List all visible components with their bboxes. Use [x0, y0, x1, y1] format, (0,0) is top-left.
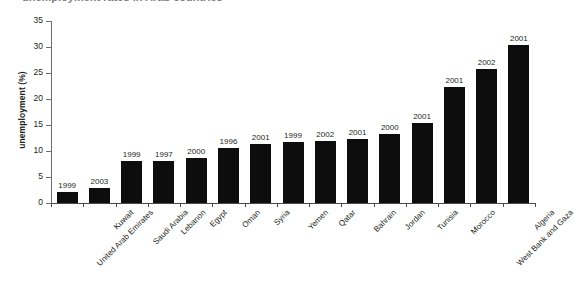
y-tick-label-10: 10 [34, 145, 43, 155]
y-tick-20: 20 [46, 99, 51, 100]
y-tick-label-15: 15 [34, 119, 43, 129]
bar-year-label: 2002 [478, 58, 496, 67]
bar[interactable]: 2001 [347, 139, 368, 203]
x-category-label: Bahrain [372, 208, 398, 234]
x-category-label: Oman [241, 208, 263, 230]
x-category-label: Syria [272, 208, 291, 227]
clipped-title-text: unemployment rates in Arab countries [22, 0, 223, 3]
x-tick-15 [535, 203, 536, 207]
y-tick-label-25: 25 [34, 67, 43, 77]
x-category-label: Jordan [403, 208, 427, 232]
bar-year-label: 1997 [155, 150, 173, 159]
x-tick-6 [245, 203, 246, 207]
x-axis-line [51, 203, 535, 204]
bar-year-label: 1999 [58, 181, 76, 190]
x-tick-9 [341, 203, 342, 207]
bar-year-label: 1999 [123, 150, 141, 159]
x-category-label: Yemen [306, 208, 330, 232]
x-tick-3 [148, 203, 149, 207]
bar-year-label: 2000 [187, 147, 205, 156]
x-axis-category-labels: United Arab EmiratesKuwaitSaudi ArabiaLe… [51, 208, 535, 288]
bar-year-label: 2001 [445, 76, 463, 85]
bar[interactable]: 2000 [379, 134, 400, 203]
x-tick-11 [406, 203, 407, 207]
bar[interactable]: 2002 [476, 69, 497, 203]
y-tick-5: 5 [46, 177, 51, 178]
x-tick-7 [277, 203, 278, 207]
x-tick-0 [51, 203, 52, 207]
y-tick-label-30: 30 [34, 41, 43, 51]
bar-year-label: 1999 [284, 131, 302, 140]
bar-year-label: 2001 [349, 128, 367, 137]
plot-area: 05101520253035 1999200319991997200019962… [51, 21, 535, 203]
bar-year-label: 2001 [510, 34, 528, 43]
bar[interactable]: 2001 [444, 87, 465, 203]
y-tick-30: 30 [46, 47, 51, 48]
x-tick-1 [83, 203, 84, 207]
bar-year-label: 2001 [252, 133, 270, 142]
bar[interactable]: 2001 [250, 144, 271, 203]
y-axis-title: unemployment (%) [17, 25, 27, 195]
y-tick-label-0: 0 [38, 197, 43, 207]
bar-year-label: 2003 [90, 177, 108, 186]
y-tick-15: 15 [46, 125, 51, 126]
x-tick-12 [438, 203, 439, 207]
y-tick-label-20: 20 [34, 93, 43, 103]
x-tick-10 [374, 203, 375, 207]
x-tick-2 [116, 203, 117, 207]
x-category-label: Tunisia [436, 208, 460, 232]
x-tick-8 [309, 203, 310, 207]
bar-year-label: 1996 [220, 137, 238, 146]
x-tick-14 [503, 203, 504, 207]
bar[interactable]: 2000 [186, 158, 207, 203]
bar[interactable]: 1999 [57, 192, 78, 203]
bar-year-label: 2002 [316, 130, 334, 139]
clipped-title: unemployment rates in Arab countries [0, 0, 544, 9]
x-category-label: Morocco [469, 208, 497, 236]
y-tick-25: 25 [46, 73, 51, 74]
x-tick-4 [180, 203, 181, 207]
bar-year-label: 2000 [381, 123, 399, 132]
x-category-label: Qatar [337, 208, 358, 229]
y-tick-label-35: 35 [34, 15, 43, 25]
y-tick-35: 35 [46, 21, 51, 22]
y-tick-label-5: 5 [38, 171, 43, 181]
bar[interactable]: 2001 [508, 45, 529, 203]
bar[interactable]: 1999 [283, 142, 304, 203]
bar[interactable]: 2002 [315, 141, 336, 203]
bar[interactable]: 1997 [153, 161, 174, 203]
x-tick-5 [212, 203, 213, 207]
bar[interactable]: 1999 [121, 161, 142, 203]
x-tick-13 [470, 203, 471, 207]
bar-year-label: 2001 [413, 112, 431, 121]
x-category-label: Egypt [208, 208, 229, 229]
bar[interactable]: 1996 [218, 148, 239, 203]
y-axis-line [51, 21, 52, 203]
bar[interactable]: 2003 [89, 188, 110, 203]
y-tick-10: 10 [46, 151, 51, 152]
bar[interactable]: 2001 [412, 123, 433, 203]
